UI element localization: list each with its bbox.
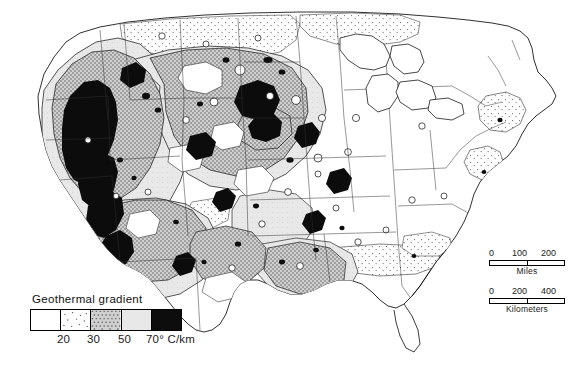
legend-label-50: 50: [118, 333, 131, 345]
kilometers-tick-0: 0: [489, 286, 494, 296]
miles-scale-unit: Miles: [489, 266, 565, 276]
legend-swatch-highest: [152, 310, 181, 330]
legend-title: Geothermal gradient: [32, 293, 197, 305]
miles-scale-rule: [489, 260, 565, 266]
miles-tick-2: 200: [541, 248, 556, 258]
legend-swatch-high: [122, 310, 152, 330]
geothermal-gradient-map: Geothermal gradient: [0, 0, 575, 372]
legend-label-20: 20: [57, 333, 70, 345]
miles-scale: 0 100 200 Miles: [489, 248, 569, 276]
legend: Geothermal gradient: [22, 293, 197, 347]
kilometers-scale-ticks: 0 200 400: [489, 286, 569, 298]
kilometers-scale: 0 200 400 Kilometers: [489, 286, 569, 314]
miles-tick-1: 100: [512, 248, 527, 258]
kilometers-tick-2: 400: [541, 286, 556, 296]
legend-break-labels: 20 30 50 70° C/km: [22, 331, 197, 347]
scale-bars: 0 100 200 Miles 0 200 400 Kilometers: [489, 248, 569, 324]
kilometers-scale-unit: Kilometers: [489, 304, 565, 314]
legend-swatch-low: [61, 310, 91, 330]
legend-swatch-row: [30, 309, 182, 331]
legend-swatch-medium: [91, 310, 121, 330]
legend-swatch-lowest: [31, 310, 61, 330]
miles-scale-ticks: 0 100 200: [489, 248, 569, 260]
miles-tick-0: 0: [489, 248, 494, 258]
legend-label-30: 30: [87, 333, 100, 345]
kilometers-tick-1: 200: [512, 286, 527, 296]
kilometers-scale-rule: [489, 298, 565, 304]
legend-label-70: 70° C/km: [146, 333, 195, 345]
